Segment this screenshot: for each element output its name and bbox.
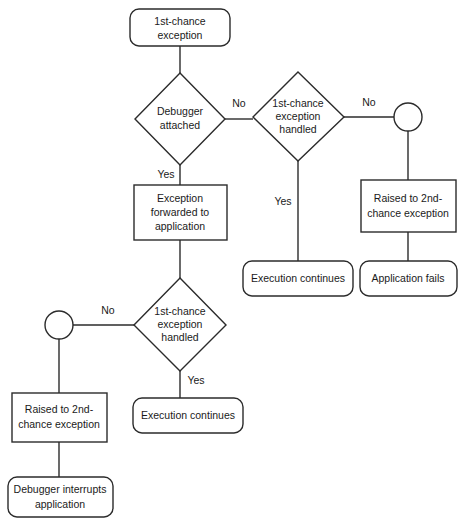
raised-2nd-right-label-line2: chance exception [367, 207, 449, 219]
exception-forwarded-label-line2: forwarded to [151, 206, 210, 218]
exception-forwarded-label-line3: application [155, 220, 205, 232]
debugger-interrupts-label-line2: application [35, 498, 85, 510]
execution-continues-top-label: Execution continues [251, 272, 345, 284]
handled-bottom-label-line2: exception [158, 318, 203, 330]
node-handled-top[interactable]: 1st-chance exception handled [253, 72, 344, 161]
start-label-line1: 1st-chance [154, 15, 206, 27]
edge-label-layer: No Yes No Yes No Yes [101, 96, 376, 386]
node-execution-continues-bottom[interactable]: Execution continues [133, 398, 243, 433]
edge-label-handled-bottom-no: No [101, 304, 115, 316]
handled-top-label-line2: exception [276, 110, 321, 122]
connector-bottom-left-shape [45, 311, 73, 339]
edge-label-debugger-yes: Yes [157, 168, 174, 180]
edge-label-handled-top-no: No [362, 96, 376, 108]
node-application-fails[interactable]: Application fails [360, 261, 457, 296]
flowchart-svg: 1st-chance exception Debugger attached 1… [0, 0, 471, 527]
edge-label-handled-bottom-yes: Yes [187, 374, 204, 386]
node-handled-bottom[interactable]: 1st-chance exception handled [134, 278, 226, 371]
raised-2nd-right-label-line1: Raised to 2nd- [374, 192, 443, 204]
node-raised-2nd-left[interactable]: Raised to 2nd- chance exception [12, 393, 107, 442]
application-fails-label: Application fails [372, 272, 445, 284]
node-debugger-attached[interactable]: Debugger attached [135, 73, 225, 165]
handled-bottom-label-line1: 1st-chance [154, 305, 206, 317]
edge-label-debugger-no: No [232, 97, 246, 109]
raised-2nd-left-label-line2: chance exception [18, 418, 100, 430]
node-start[interactable]: 1st-chance exception [130, 9, 230, 46]
raised-2nd-left-label-line1: Raised to 2nd- [25, 403, 94, 415]
node-exception-forwarded[interactable]: Exception forwarded to application [134, 185, 227, 240]
node-raised-2nd-right[interactable]: Raised to 2nd- chance exception [361, 180, 456, 232]
connector-top-right-shape [394, 103, 422, 131]
debugger-interrupts-label-line1: Debugger interrupts [14, 483, 107, 495]
handled-top-label-line1: 1st-chance [272, 97, 324, 109]
edge-label-handled-top-yes: Yes [274, 195, 291, 207]
debugger-attached-label-line2: attached [160, 119, 200, 131]
flowchart-canvas: 1st-chance exception Debugger attached 1… [0, 0, 471, 527]
node-connector-top-right[interactable] [394, 103, 422, 131]
start-label-line2: exception [158, 29, 203, 41]
handled-bottom-label-line3: handled [161, 331, 199, 343]
exception-forwarded-label-line1: Exception [157, 192, 203, 204]
node-debugger-interrupts[interactable]: Debugger interrupts application [8, 477, 113, 517]
node-connector-bottom-left[interactable] [45, 311, 73, 339]
debugger-attached-label-line1: Debugger [157, 105, 204, 117]
node-execution-continues-top[interactable]: Execution continues [243, 261, 353, 296]
execution-continues-bottom-label: Execution continues [141, 409, 235, 421]
handled-top-label-line3: handled [279, 123, 317, 135]
